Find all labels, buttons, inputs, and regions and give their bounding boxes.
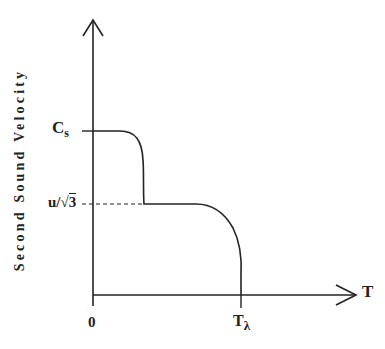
cs-label: Cs <box>52 118 69 141</box>
origin-label: 0 <box>88 314 96 331</box>
y-axis-label-text: Second Sound Velocity <box>12 69 28 272</box>
u-prefix: u/ <box>48 194 61 210</box>
origin-text: 0 <box>88 314 96 330</box>
chart-canvas <box>0 0 385 349</box>
velocity-curve <box>93 131 241 295</box>
u-sqrt3-label: u/√3 <box>48 194 76 211</box>
cs-sub: s <box>64 126 69 140</box>
t-lambda-main: T <box>233 312 244 329</box>
x-axis-label: T <box>362 282 373 302</box>
sqrt-icon: √ <box>61 194 69 210</box>
radicand: 3 <box>69 193 77 210</box>
cs-main: C <box>52 118 64 137</box>
t-lambda-label: Tλ <box>233 312 250 334</box>
y-axis-label: Second Sound Velocity <box>8 40 32 300</box>
x-axis-label-text: T <box>362 282 373 301</box>
t-lambda-sub: λ <box>244 318 250 333</box>
